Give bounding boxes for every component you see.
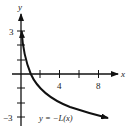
y-axis-label: y [17,2,22,12]
curve-label: y = −L(x) [38,113,73,123]
tick-label-8: 8 [96,81,101,91]
tick-label-3: 3 [9,27,14,37]
x-axis-label: x [120,69,125,79]
graph: y x 3 −3 4 8 y = −L(x) [0,0,136,134]
tick-label-4: 4 [57,81,62,91]
tick-label-neg3: −3 [3,113,13,123]
